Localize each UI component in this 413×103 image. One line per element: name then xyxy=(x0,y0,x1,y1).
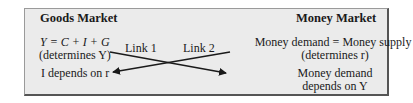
link-arrows xyxy=(0,0,413,103)
link-2-arrow xyxy=(113,52,230,72)
